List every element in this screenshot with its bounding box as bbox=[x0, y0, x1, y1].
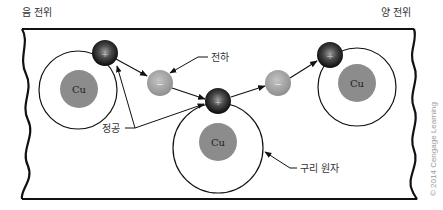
positive-potential-label: 양 전위 bbox=[381, 6, 411, 18]
copper-atom-label: 구리 원자 bbox=[300, 163, 339, 174]
copyright-text: © 2014 Cengage Learning bbox=[429, 102, 438, 196]
svg-text:+: + bbox=[101, 49, 109, 59]
electron-1: − bbox=[147, 70, 173, 96]
nucleus-label: Cu bbox=[211, 137, 226, 148]
hole-3: + bbox=[317, 42, 343, 68]
svg-text:+: + bbox=[214, 97, 222, 107]
copper-atom-2: Cu bbox=[173, 103, 263, 193]
copper-atom-callout: 구리 원자 bbox=[265, 152, 339, 174]
hole-label: 정공 bbox=[102, 123, 120, 134]
negative-potential-label: 음 전위 bbox=[22, 6, 52, 18]
charge-label: 전하 bbox=[211, 51, 229, 63]
nucleus-label: Cu bbox=[350, 78, 365, 89]
svg-text:−: − bbox=[274, 79, 282, 89]
hole-flow-diagram: 음 전위 양 전위 Cu Cu Cu + + + − bbox=[0, 0, 443, 210]
nucleus-label: Cu bbox=[72, 84, 87, 95]
electron-2: − bbox=[265, 70, 291, 96]
svg-text:−: − bbox=[156, 79, 164, 89]
charge-callout: 전하 bbox=[170, 51, 229, 73]
hole-2: + bbox=[205, 88, 231, 114]
svg-text:+: + bbox=[326, 51, 334, 61]
hole-1: + bbox=[92, 40, 118, 66]
